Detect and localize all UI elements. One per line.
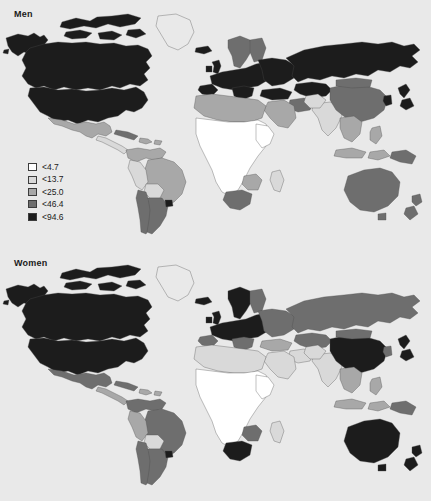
country-papua-new-guinea [390, 401, 416, 415]
country-philippines [370, 126, 382, 144]
country-ireland [206, 66, 212, 72]
country-finland [250, 289, 266, 313]
country-mongolia [336, 78, 372, 88]
legend-label-5: <94.6 [42, 213, 64, 222]
legend-label-3: <25.0 [42, 188, 64, 197]
legend-label-1: <4.7 [42, 163, 59, 172]
region-north-africa [194, 94, 266, 122]
country-greenland [156, 265, 194, 301]
country-united-states [28, 338, 148, 375]
world-map-women [0, 251, 431, 501]
map-landmasses-women [3, 265, 422, 485]
legend-men: <4.7 <13.7 <25.0 <46.4 <94.6 [28, 161, 64, 223]
region-middle-east [264, 100, 296, 128]
country-madagascar [270, 170, 284, 192]
region-southeast-asia [340, 367, 362, 393]
country-indonesia [334, 399, 390, 411]
country-uruguay [165, 451, 173, 458]
world-map-men [0, 0, 431, 250]
country-canada-arctic [60, 14, 146, 40]
country-indonesia [334, 148, 390, 160]
country-united-kingdom [212, 311, 221, 325]
country-new-zealand [404, 194, 422, 220]
legend-row: <46.4 [28, 198, 64, 210]
country-canada-arctic [60, 265, 146, 291]
country-canada [22, 293, 152, 341]
country-tasmania [378, 464, 386, 471]
legend-row: <13.7 [28, 173, 64, 185]
country-caribbean-islands [139, 389, 162, 396]
figure-root: Men [0, 0, 431, 501]
legend-swatch-5 [28, 213, 37, 221]
region-zimbabwe-mozambique [242, 425, 262, 441]
country-south-africa [223, 190, 252, 210]
legend-label-2: <13.7 [42, 175, 64, 184]
region-zimbabwe-mozambique [242, 174, 262, 190]
country-greenland [156, 14, 194, 50]
legend-swatch-2 [28, 176, 37, 184]
country-peru-ecuador [128, 160, 148, 190]
country-turkey [260, 88, 292, 100]
country-south-africa [223, 441, 252, 461]
country-russia [286, 293, 420, 333]
country-canada [22, 42, 152, 90]
legend-row: <94.6 [28, 211, 64, 223]
map-panel-men: Men [0, 0, 431, 250]
country-russia [286, 42, 420, 82]
country-ireland [206, 317, 212, 323]
country-japan [398, 335, 414, 361]
legend-swatch-3 [28, 188, 37, 196]
map-landmasses-men [3, 14, 422, 234]
country-uruguay [165, 200, 173, 207]
country-argentina [147, 198, 168, 234]
country-papua-new-guinea [390, 150, 416, 164]
country-new-zealand [404, 445, 422, 471]
country-tasmania [378, 213, 386, 220]
country-norway-sweden [228, 36, 252, 68]
country-japan [398, 84, 414, 110]
legend-label-4: <46.4 [42, 200, 64, 209]
legend-swatch-1 [28, 163, 37, 171]
country-cuba [114, 130, 138, 140]
country-australia [344, 419, 400, 463]
country-caribbean-islands [139, 138, 162, 145]
country-cuba [114, 381, 138, 391]
region-southeast-asia [340, 116, 362, 142]
country-central-america [96, 387, 128, 405]
country-argentina [147, 449, 168, 485]
region-north-africa [194, 345, 266, 373]
country-finland [250, 38, 266, 62]
panel-title-women: Women [14, 258, 47, 268]
legend-row: <25.0 [28, 186, 64, 198]
region-middle-east [264, 351, 296, 379]
country-mongolia [336, 329, 372, 339]
country-united-kingdom [212, 60, 221, 74]
country-norway-sweden [228, 287, 252, 319]
country-united-states [28, 87, 148, 124]
legend-row: <4.7 [28, 161, 64, 173]
country-peru-ecuador [128, 411, 148, 441]
legend-swatch-4 [28, 200, 37, 208]
country-philippines [370, 377, 382, 395]
country-iceland [195, 297, 212, 305]
panel-title-men: Men [14, 9, 33, 19]
country-turkey [260, 339, 292, 351]
map-panel-women: Women [0, 251, 431, 501]
country-central-america [96, 136, 128, 154]
country-australia [344, 168, 400, 212]
country-madagascar [270, 421, 284, 443]
country-iceland [195, 46, 212, 54]
